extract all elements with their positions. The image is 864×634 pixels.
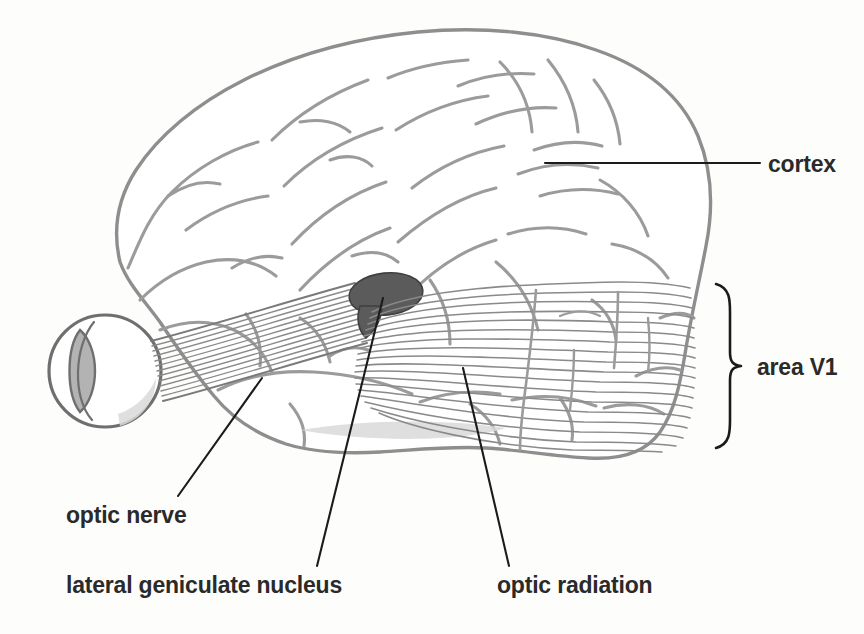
area-v1-brace [716,284,741,448]
brain-visual-pathway-diagram: cortex area V1 optic nerve lateral genic… [0,0,864,634]
cerebral-cortex-outline [117,30,711,459]
diagram-canvas: cortex area V1 optic nerve lateral genic… [0,0,864,634]
eyeball [49,315,161,427]
label-cortex: cortex [768,151,836,177]
label-lateral-geniculate-nucleus: lateral geniculate nucleus [66,572,342,598]
label-area-v1: area V1 [757,354,838,380]
label-optic-radiation: optic radiation [497,572,652,598]
label-optic-nerve: optic nerve [66,502,187,528]
